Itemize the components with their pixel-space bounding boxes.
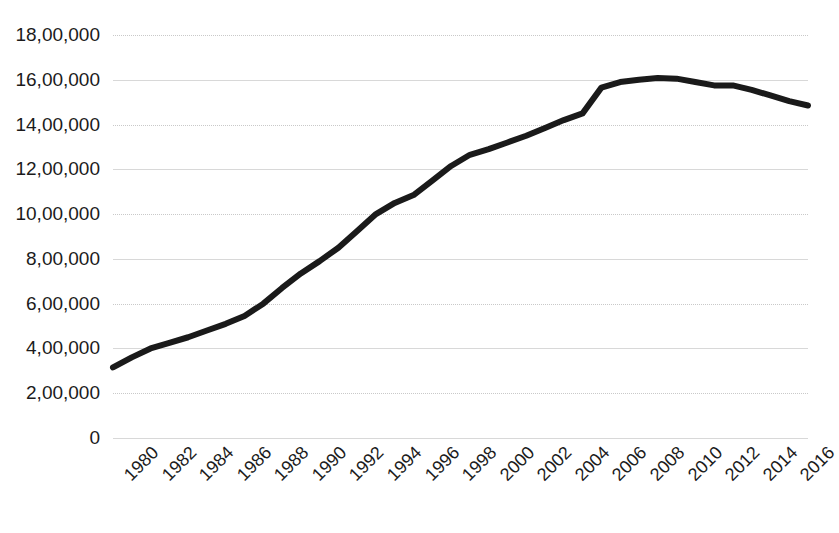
x-axis-tick-label: 2002 bbox=[534, 443, 575, 484]
x-axis-tick-label: 1990 bbox=[309, 443, 350, 484]
y-axis-tick-label: 4,00,000 bbox=[26, 338, 100, 357]
x-axis: 1980198219841986198819901992199419961998… bbox=[113, 443, 808, 533]
y-axis-tick-label: 8,00,000 bbox=[26, 249, 100, 268]
y-axis-tick-label: 2,00,000 bbox=[26, 383, 100, 402]
x-axis-tick-label: 1996 bbox=[421, 443, 462, 484]
plot-area bbox=[113, 35, 808, 438]
x-axis-tick-label: 2016 bbox=[797, 443, 838, 484]
x-axis-tick-label: 1998 bbox=[459, 443, 500, 484]
x-axis-tick-label: 1980 bbox=[121, 443, 162, 484]
y-axis-tick-label: 18,00,000 bbox=[15, 25, 100, 44]
x-axis-tick-label: 2010 bbox=[684, 443, 725, 484]
x-axis-tick-label: 1982 bbox=[158, 443, 199, 484]
line-series bbox=[113, 35, 808, 438]
y-axis-tick-label: 16,00,000 bbox=[15, 70, 100, 89]
y-axis-tick-label: 10,00,000 bbox=[15, 204, 100, 223]
y-axis: 02,00,0004,00,0006,00,0008,00,00010,00,0… bbox=[0, 0, 100, 533]
x-axis-tick-label: 2014 bbox=[759, 443, 800, 484]
x-axis-tick-label: 1984 bbox=[196, 443, 237, 484]
x-axis-tick-label: 2004 bbox=[572, 443, 613, 484]
x-axis-tick-label: 2012 bbox=[722, 443, 763, 484]
x-axis-tick-label: 2000 bbox=[496, 443, 537, 484]
y-axis-tick-label: 0 bbox=[89, 428, 100, 447]
x-axis-tick-label: 2006 bbox=[609, 443, 650, 484]
x-axis-tick-label: 1992 bbox=[346, 443, 387, 484]
x-axis-tick-label: 1986 bbox=[233, 443, 274, 484]
x-axis-tick-label: 1994 bbox=[384, 443, 425, 484]
y-axis-tick-label: 12,00,000 bbox=[15, 159, 100, 178]
y-axis-tick-label: 6,00,000 bbox=[26, 294, 100, 313]
series-polyline bbox=[113, 78, 808, 367]
x-axis-tick-label: 2008 bbox=[647, 443, 688, 484]
x-axis-tick-label: 1988 bbox=[271, 443, 312, 484]
y-axis-tick-label: 14,00,000 bbox=[15, 115, 100, 134]
gridline bbox=[113, 438, 808, 439]
